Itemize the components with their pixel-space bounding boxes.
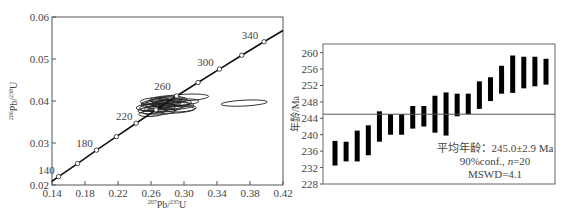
age-bar <box>410 106 415 129</box>
y-tick-label: 228 <box>302 178 319 190</box>
concordia-age-marker <box>56 174 60 178</box>
error-ellipses <box>136 93 267 117</box>
concordia-age-marker <box>217 67 221 71</box>
concordia-age-marker <box>114 135 118 139</box>
y-tick-label: 252 <box>302 79 319 91</box>
left-x-axis-label: 207Pb/235U <box>148 199 187 210</box>
concordia-age-marker <box>240 53 244 57</box>
concordia-age-marker <box>154 108 158 112</box>
concordia-age-marker <box>75 161 79 165</box>
concordia-age-label: 180 <box>76 137 93 149</box>
age-bar <box>399 114 404 135</box>
x-tick-label: 0.38 <box>240 187 260 199</box>
y-tick-label: 244 <box>302 112 319 124</box>
age-bar <box>377 111 382 141</box>
x-tick-label: 0.18 <box>75 187 95 199</box>
y-tick-label: 236 <box>302 145 319 157</box>
concordia-age-marker <box>94 148 98 152</box>
age-bar <box>466 94 471 115</box>
y-tick-label: 240 <box>302 129 319 141</box>
concordia-age-marker <box>196 80 200 84</box>
age-bar <box>344 142 349 162</box>
age-bar <box>532 57 537 87</box>
concordia-age-marker <box>174 94 178 98</box>
concordia-age-label: 300 <box>197 56 214 68</box>
x-tick-label: 0.34 <box>207 187 227 199</box>
age-bar <box>388 114 393 135</box>
left-y-axis-label: 206Pb/238U <box>8 81 19 120</box>
x-tick-label: 0.26 <box>141 187 161 199</box>
chart-canvas: 0.140.180.220.260.300.340.380.420.020.03… <box>0 0 561 213</box>
age-bar <box>488 77 493 101</box>
right-y-axis-label: 年龄/Ma <box>289 95 301 132</box>
y-tick-label: 260 <box>302 47 319 59</box>
concordia-age-label: 260 <box>154 80 171 92</box>
age-bar <box>521 57 526 89</box>
concordia-age-label: 340 <box>242 29 259 41</box>
y-tick-label: 0.05 <box>30 53 50 65</box>
age-bar <box>499 66 504 94</box>
age-bar <box>355 131 360 162</box>
y-tick-label: 0.06 <box>30 11 50 23</box>
x-tick-label: 0.42 <box>273 187 292 199</box>
x-tick-label: 0.22 <box>108 187 127 199</box>
concordia-age-label: 220 <box>116 110 133 122</box>
age-bar <box>333 141 338 166</box>
confidence-annotation: 90%conf., n=20 <box>460 155 531 167</box>
y-tick-label: 0.04 <box>30 95 50 107</box>
age-bar <box>421 106 426 127</box>
y-tick-label: 232 <box>302 162 319 174</box>
concordia-plot: 0.140.180.220.260.300.340.380.420.020.03… <box>30 11 293 199</box>
x-tick-label: 0.30 <box>174 187 194 199</box>
y-tick-label: 0.03 <box>30 137 50 149</box>
y-tick-label: 256 <box>302 63 319 75</box>
age-bar <box>477 81 482 109</box>
mswd-annotation: MSWD=4.1 <box>468 168 522 180</box>
age-bar <box>544 59 549 85</box>
y-tick-label: 0.02 <box>30 179 49 191</box>
mean-age-annotation: 平均年龄：245.0±2.9 Ma <box>437 141 554 154</box>
y-tick-label: 248 <box>302 96 319 108</box>
error-ellipse <box>221 99 267 107</box>
concordia-age-label: 140 <box>38 164 55 176</box>
age-bar <box>366 125 371 155</box>
concordia-age-marker <box>262 40 266 44</box>
concordia-age-marker <box>134 121 138 125</box>
age-bar <box>455 94 460 117</box>
age-bar <box>510 55 515 92</box>
